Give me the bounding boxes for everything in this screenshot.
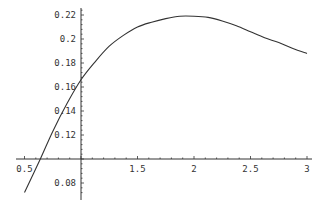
y-tick-label: 0.08 — [54, 178, 76, 188]
y-tick-label: 0.2 — [60, 34, 76, 44]
y-tick-label: 0.18 — [54, 58, 76, 68]
x-tick-label: 2 — [191, 164, 196, 174]
x-tick-label: 3 — [304, 164, 309, 174]
y-tick-label: 0.22 — [54, 10, 76, 20]
y-tick-label: 0.16 — [54, 82, 76, 92]
x-tick-label: 2.5 — [242, 164, 258, 174]
line-chart: 0.51.522.530.080.120.140.160.180.20.22 — [0, 0, 327, 206]
x-tick-label: 0.5 — [16, 164, 32, 174]
y-tick-label: 0.12 — [54, 130, 76, 140]
x-tick-label: 1.5 — [129, 164, 145, 174]
tick-labels: 0.51.522.530.080.120.140.160.180.20.22 — [16, 10, 309, 188]
